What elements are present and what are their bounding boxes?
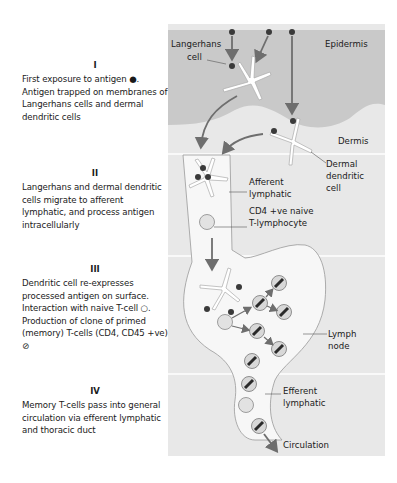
label-circulation: Circulation xyxy=(283,440,329,450)
label-lymph: Lymph xyxy=(328,329,356,339)
label-t-lymphocyte: T-lymphocyte xyxy=(248,218,307,228)
label-langerhans-cell: cell xyxy=(187,52,202,62)
label-epidermis: Epidermis xyxy=(325,39,368,49)
label-efferent: Efferent xyxy=(283,386,318,396)
label-efferent-lymphatic: lymphatic xyxy=(283,398,326,408)
immune-diagram: Langerhans cell Epidermis Dermis Dermal … xyxy=(0,0,397,483)
label-dermal-cell: cell xyxy=(326,183,341,193)
label-langerhans: Langerhans xyxy=(171,39,222,49)
label-dermal: Dermal xyxy=(326,159,357,169)
label-node: node xyxy=(328,341,349,351)
label-dermal-dendritic: dendritic xyxy=(326,171,364,181)
naive-t-cell xyxy=(200,215,215,230)
label-afferent: Afferent xyxy=(249,177,284,187)
label-dermis: Dermis xyxy=(338,136,369,146)
label-afferent-lymphatic: lymphatic xyxy=(249,189,292,199)
label-cd4: CD4 +ve naive xyxy=(249,206,314,216)
